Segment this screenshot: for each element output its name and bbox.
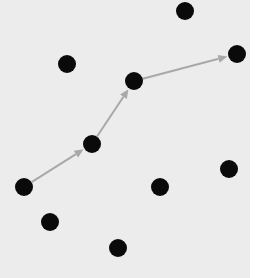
node-dot: [151, 178, 169, 196]
path-diagram: [0, 0, 264, 278]
node-dot: [176, 2, 194, 20]
node-dot: [228, 45, 246, 63]
node-dot: [41, 213, 59, 231]
node-dot: [83, 135, 101, 153]
node-dot: [220, 160, 238, 178]
diagram-background: [0, 0, 250, 278]
node-dot: [125, 72, 143, 90]
node-dot: [109, 239, 127, 257]
node-dot: [58, 55, 76, 73]
node-dot: [15, 178, 33, 196]
